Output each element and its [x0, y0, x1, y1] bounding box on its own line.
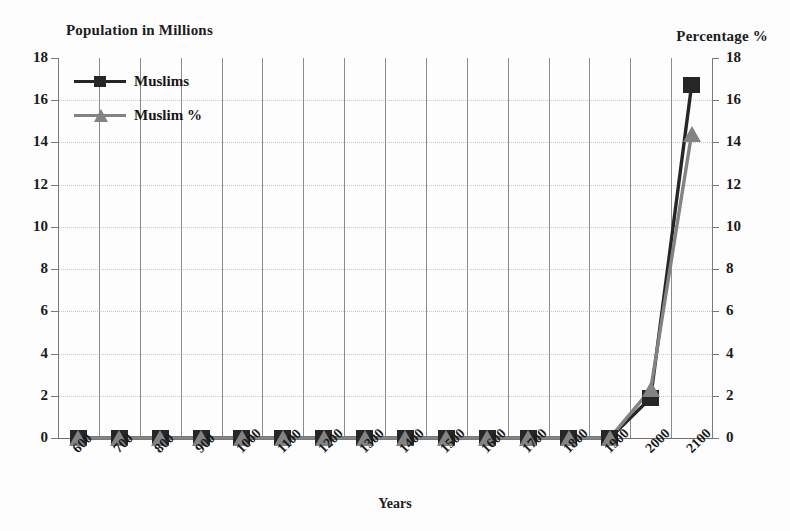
- right-axis-line: [712, 58, 713, 438]
- legend-label-muslim-percent: Muslim %: [134, 107, 202, 124]
- right-axis-tick-mark: [712, 142, 719, 143]
- left-axis-tick-mark: [51, 269, 58, 270]
- left-axis-tick-label: 0: [14, 430, 48, 445]
- data-point-triangle-marker: [683, 126, 701, 142]
- legend-item-muslim-percent: Muslim %: [74, 98, 234, 132]
- left-axis-tick-mark: [51, 438, 58, 439]
- left-axis-tick-label: 14: [14, 134, 48, 149]
- left-axis-title: Population in Millions: [66, 22, 213, 39]
- right-axis-tick-mark: [712, 58, 719, 59]
- right-axis-tick-label: 2: [726, 388, 760, 403]
- left-axis-tick-mark: [51, 185, 58, 186]
- left-axis-tick-label: 6: [14, 303, 48, 318]
- left-axis-tick-mark: [51, 100, 58, 101]
- left-axis-tick-label: 16: [14, 92, 48, 107]
- data-point-square-marker: [683, 77, 700, 93]
- left-axis-tick-label: 4: [14, 346, 48, 361]
- legend-swatch-square-icon: [74, 74, 126, 88]
- x-axis-title: Years: [0, 496, 790, 512]
- series-line: [78, 85, 691, 438]
- right-axis-tick-label: 10: [726, 219, 760, 234]
- right-axis-tick-mark: [712, 354, 719, 355]
- right-axis-tick-label: 6: [726, 303, 760, 318]
- right-axis-tick-mark: [712, 396, 719, 397]
- left-axis-tick-mark: [51, 142, 58, 143]
- left-axis-tick-label: 18: [14, 50, 48, 65]
- right-axis-tick-mark: [712, 185, 719, 186]
- left-axis-tick-label: 12: [14, 177, 48, 192]
- left-axis-tick-mark: [51, 311, 58, 312]
- series-line: [78, 134, 691, 438]
- right-axis-tick-label: 8: [726, 261, 760, 276]
- legend-swatch-triangle-icon: [74, 108, 126, 122]
- left-axis-tick-mark: [51, 354, 58, 355]
- right-axis-tick-mark: [712, 100, 719, 101]
- right-axis-tick-label: 18: [726, 50, 760, 65]
- right-axis-tick-label: 14: [726, 134, 760, 149]
- legend: Muslims Muslim %: [74, 64, 234, 132]
- right-axis-title: Percentage %: [676, 28, 768, 45]
- left-axis-tick-label: 8: [14, 261, 48, 276]
- data-point-triangle-marker: [642, 381, 660, 397]
- right-axis-tick-label: 0: [726, 430, 760, 445]
- left-axis-tick-label: 2: [14, 388, 48, 403]
- right-axis-tick-label: 16: [726, 92, 760, 107]
- legend-label-muslims: Muslims: [134, 73, 189, 90]
- left-axis-tick-mark: [51, 227, 58, 228]
- left-axis-tick-mark: [51, 396, 58, 397]
- legend-item-muslims: Muslims: [74, 64, 234, 98]
- right-axis-tick-mark: [712, 227, 719, 228]
- left-axis-tick-label: 10: [14, 219, 48, 234]
- chart-screenshot: Population in Millions Percentage % 1816…: [0, 0, 790, 531]
- right-axis-tick-label: 4: [726, 346, 760, 361]
- left-axis-tick-mark: [51, 58, 58, 59]
- right-axis-tick-mark: [712, 311, 719, 312]
- right-axis-tick-mark: [712, 438, 719, 439]
- right-axis-tick-label: 12: [726, 177, 760, 192]
- right-axis-tick-mark: [712, 269, 719, 270]
